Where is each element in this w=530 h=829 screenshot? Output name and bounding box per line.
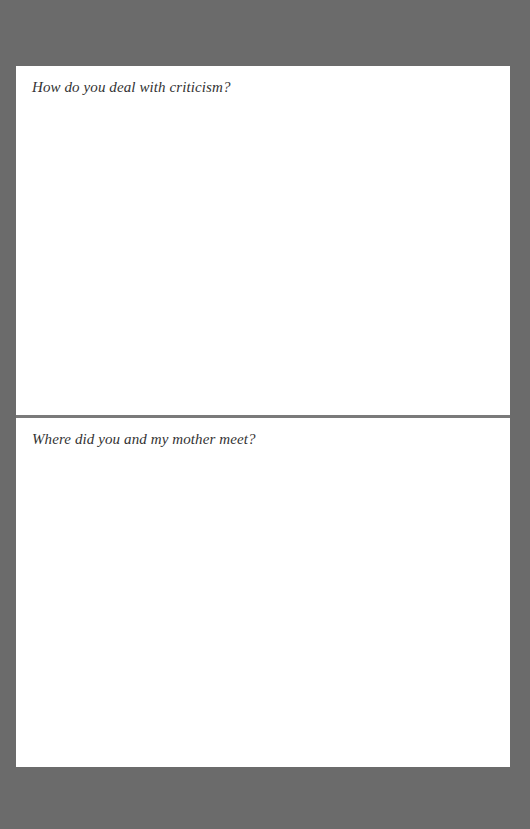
- question-section-2: Where did you and my mother meet?: [16, 418, 510, 767]
- journal-page: How do you deal with criticism? Where di…: [16, 66, 510, 767]
- answer-area: [32, 106, 494, 405]
- answer-area: [32, 458, 494, 757]
- question-section-1: How do you deal with criticism?: [16, 66, 510, 415]
- question-prompt: How do you deal with criticism?: [32, 79, 231, 96]
- question-prompt: Where did you and my mother meet?: [32, 431, 256, 448]
